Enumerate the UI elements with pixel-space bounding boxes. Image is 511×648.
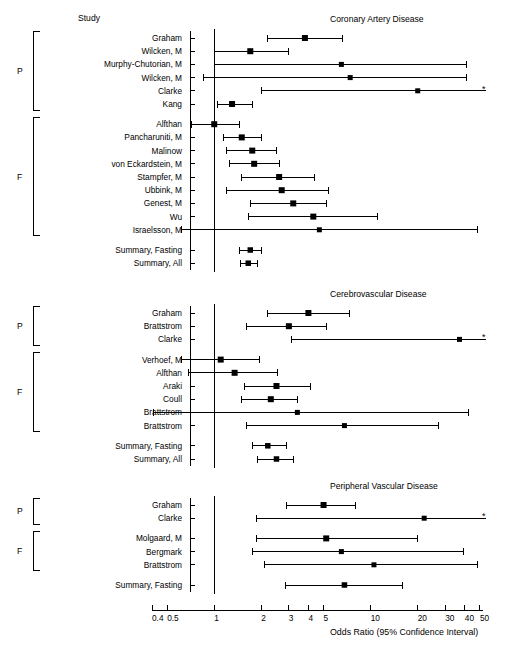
- point-estimate-marker: [268, 396, 274, 402]
- study-label: Alfthan: [156, 120, 182, 128]
- study-label: Wilcken, M: [141, 74, 182, 82]
- study-column-header: Study: [78, 14, 100, 23]
- study-label: Malinow: [152, 147, 182, 155]
- group-label-P: P: [17, 507, 23, 516]
- study-label: Coull: [163, 395, 182, 403]
- study-label: Wu: [170, 213, 182, 221]
- study-label: Summary, Fasting: [115, 581, 182, 589]
- point-estimate-marker: [317, 227, 322, 232]
- group-label-P: P: [17, 67, 23, 76]
- point-estimate-marker: [302, 35, 308, 41]
- study-label: Murphy-Chutorian, M: [104, 60, 182, 68]
- group-label-F: F: [17, 173, 22, 182]
- study-label: Graham: [152, 501, 182, 509]
- study-label: Brattstrom: [144, 322, 182, 330]
- point-estimate-marker: [371, 562, 376, 567]
- point-estimate-marker: [422, 516, 427, 521]
- forest-plot-canvas: [0, 0, 511, 648]
- point-estimate-marker: [339, 549, 344, 554]
- point-estimate-marker: [415, 88, 420, 93]
- group-label-F: F: [17, 547, 22, 556]
- point-estimate-marker: [239, 134, 245, 140]
- study-label: Brattstrom: [144, 408, 182, 416]
- group-label-P: P: [17, 322, 23, 331]
- point-estimate-marker: [218, 357, 224, 363]
- point-estimate-marker: [339, 62, 344, 67]
- study-label: Kang: [163, 100, 182, 108]
- study-label: Graham: [152, 34, 182, 42]
- point-estimate-marker: [342, 423, 347, 428]
- point-estimate-marker: [457, 337, 462, 342]
- study-label: Clarke: [158, 87, 182, 95]
- study-label: Stampfer, M: [137, 173, 182, 181]
- study-label: Bergmark: [146, 548, 182, 556]
- study-label: von Eckardstein, M: [111, 160, 182, 168]
- study-label: Araki: [163, 382, 182, 390]
- point-estimate-marker: [286, 323, 292, 329]
- point-estimate-marker: [279, 187, 285, 193]
- truncation-asterisk: *: [482, 512, 486, 521]
- study-label: Clarke: [158, 335, 182, 343]
- group-label-F: F: [17, 388, 22, 397]
- study-label: Clarke: [158, 514, 182, 522]
- study-label: Verhoef, M: [142, 356, 182, 364]
- summary-marker: [342, 582, 348, 588]
- study-label: Brattstrom: [144, 561, 182, 569]
- study-label: Brattstrom: [144, 422, 182, 430]
- summary-marker: [274, 456, 280, 462]
- study-label: Summary, All: [134, 455, 182, 463]
- point-estimate-marker: [251, 161, 257, 167]
- study-label: Ubbink, M: [145, 186, 182, 194]
- point-estimate-marker: [273, 383, 279, 389]
- study-label: Molgaard, M: [136, 534, 182, 542]
- point-estimate-marker: [276, 174, 282, 180]
- study-label: Alfthan: [156, 369, 182, 377]
- study-label: Pancharuniti, M: [124, 133, 182, 141]
- summary-marker: [248, 247, 254, 253]
- study-label: Israelsson, M: [133, 226, 182, 234]
- point-estimate-marker: [321, 502, 327, 508]
- study-label: Summary, All: [134, 259, 182, 267]
- point-estimate-marker: [348, 75, 353, 80]
- point-estimate-marker: [232, 370, 238, 376]
- point-estimate-marker: [249, 148, 255, 154]
- summary-marker: [265, 443, 271, 449]
- study-label: Summary, Fasting: [115, 442, 182, 450]
- point-estimate-marker: [247, 48, 253, 54]
- truncation-asterisk: *: [482, 85, 486, 94]
- study-label: Wilcken, M: [141, 47, 182, 55]
- point-estimate-marker: [295, 410, 300, 415]
- forest-plot-figure: PFCoronary Artery DiseaseGrahamWilcken, …: [0, 0, 511, 648]
- study-label: Summary, Fasting: [115, 246, 182, 254]
- truncation-asterisk: *: [482, 333, 486, 342]
- study-label: Genest, M: [144, 199, 182, 207]
- point-estimate-marker: [290, 200, 296, 206]
- point-estimate-marker: [229, 101, 235, 107]
- point-estimate-marker: [310, 214, 316, 220]
- summary-marker: [246, 260, 252, 266]
- point-estimate-marker: [305, 310, 311, 316]
- point-estimate-marker: [323, 535, 329, 541]
- study-label: Graham: [152, 309, 182, 317]
